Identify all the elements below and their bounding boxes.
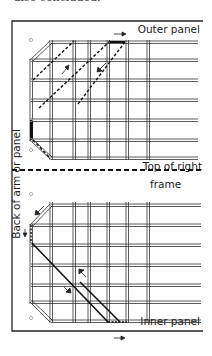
back-of-arm-label: Back of arm or panel (10, 124, 22, 244)
outer-dashed-straps (33, 41, 125, 158)
hole-icon (29, 148, 32, 151)
arrow-right-icon (114, 32, 126, 36)
inner-strap-1 (32, 243, 108, 322)
arrow-right-icon (114, 336, 125, 340)
arrow-down-left-icon (35, 206, 44, 215)
outer-strap-bottom (33, 140, 50, 158)
outer-strap-3 (78, 42, 125, 104)
arrow-up-left-icon (79, 269, 86, 277)
inner-panel-label: Inner panel (140, 315, 200, 327)
inner-chamfers (30, 204, 52, 322)
inner-vertical-stiles (30, 202, 150, 323)
frame-label: frame (150, 178, 181, 190)
diagram-border (12, 21, 203, 331)
arrow-down-right-icon (64, 287, 71, 293)
hole-icon (29, 38, 32, 41)
outer-panel-label: Outer panel (138, 23, 200, 35)
arrow-down-icon (23, 229, 27, 237)
inner-horizontal-rails (31, 204, 201, 323)
inner-panel-grid (30, 202, 201, 323)
top-of-right-label: Top of right (143, 160, 202, 172)
arrow-up-right-icon (62, 65, 69, 74)
hole-icon (29, 192, 32, 195)
inner-strap-2 (80, 282, 120, 322)
outer-arrows (62, 32, 126, 74)
outer-strap-1 (33, 41, 74, 80)
outer-left-tack-bar (30, 120, 33, 140)
arrow-down-left-icon (97, 63, 106, 72)
hole-icon (29, 316, 32, 319)
